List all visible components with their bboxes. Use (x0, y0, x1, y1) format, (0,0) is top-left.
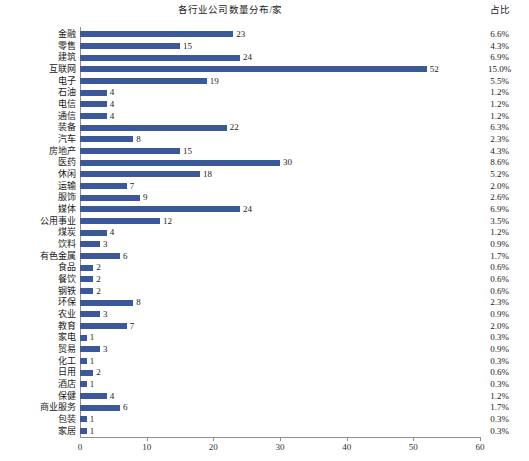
bar-value-label: 1 (90, 332, 95, 342)
x-axis-tick-60 (480, 437, 481, 441)
category-label: 零售 (0, 41, 76, 51)
bar (80, 101, 107, 107)
category-label: 电子 (0, 76, 76, 86)
x-axis-tick-10 (147, 437, 148, 441)
percentage-value: 2.3% (470, 297, 529, 307)
x-axis-tick-label-0: 0 (65, 442, 95, 452)
chart-title: 各行业公司数量分布/家 (0, 2, 460, 16)
percentage-value: 3.5% (470, 216, 529, 226)
category-label: 餐饮 (0, 274, 76, 284)
category-label: 环保 (0, 297, 76, 307)
bar (80, 171, 200, 177)
percentage-value: 0.9% (470, 309, 529, 319)
percentage-value: 0.9% (470, 344, 529, 354)
x-axis-tick-40 (347, 437, 348, 441)
percentage-column-header: 占比 (470, 2, 529, 16)
percentage-value: 0.6% (470, 286, 529, 296)
category-label: 运输 (0, 181, 76, 191)
percentage-value: 15.0% (470, 64, 529, 74)
bar-value-label: 2 (96, 367, 101, 377)
category-label: 服饰 (0, 192, 76, 202)
category-label: 装备 (0, 122, 76, 132)
percentage-value: 6.9% (470, 204, 529, 214)
bar (80, 206, 240, 212)
bar-value-label: 4 (110, 87, 115, 97)
percentage-value: 1.2% (470, 99, 529, 109)
bar (80, 78, 207, 84)
category-label: 通信 (0, 111, 76, 121)
percentage-value: 1.7% (470, 251, 529, 261)
bar-value-label: 6 (123, 402, 128, 412)
bar-value-label: 8 (136, 297, 141, 307)
percentage-value: 5.2% (470, 169, 529, 179)
bar (80, 125, 227, 131)
x-axis-tick-label-50: 50 (398, 442, 428, 452)
bar-value-label: 7 (130, 321, 135, 331)
bar (80, 218, 160, 224)
industry-company-distribution-chart: 各行业公司数量分布/家 占比 0102030405060 金融236.6%零售1… (0, 0, 529, 461)
percentage-value: 0.3% (470, 414, 529, 424)
bar (80, 276, 93, 282)
bar (80, 370, 93, 376)
bar-value-label: 3 (103, 239, 108, 249)
percentage-value: 0.9% (470, 239, 529, 249)
x-axis-tick-50 (413, 437, 414, 441)
bar (80, 55, 240, 61)
category-label: 医药 (0, 157, 76, 167)
bar-value-label: 52 (430, 64, 439, 74)
x-axis-tick-label-30: 30 (265, 442, 295, 452)
percentage-value: 6.3% (470, 122, 529, 132)
percentage-value: 1.2% (470, 227, 529, 237)
bar (80, 346, 100, 352)
bar (80, 311, 100, 317)
bar (80, 358, 87, 364)
category-label: 包装 (0, 414, 76, 424)
bar-value-label: 4 (110, 111, 115, 121)
percentage-value: 2.0% (470, 181, 529, 191)
category-label: 房地产 (0, 146, 76, 156)
x-axis-tick-30 (280, 437, 281, 441)
bar-value-label: 4 (110, 391, 115, 401)
bar-value-label: 24 (243, 204, 252, 214)
bar-value-label: 1 (90, 426, 95, 436)
percentage-value: 2.6% (470, 192, 529, 202)
category-label: 石油 (0, 87, 76, 97)
percentage-value: 0.3% (470, 379, 529, 389)
percentage-value: 2.0% (470, 321, 529, 331)
bar (80, 288, 93, 294)
bar (80, 381, 87, 387)
category-label: 农业 (0, 309, 76, 319)
bar-value-label: 7 (130, 181, 135, 191)
percentage-value: 6.9% (470, 52, 529, 62)
x-axis-tick-label-10: 10 (132, 442, 162, 452)
category-label: 酒店 (0, 379, 76, 389)
bar-value-label: 24 (243, 52, 252, 62)
category-label: 贸易 (0, 344, 76, 354)
category-label: 家居 (0, 426, 76, 436)
bar-value-label: 6 (123, 251, 128, 261)
bar-value-label: 23 (236, 29, 245, 39)
category-label: 保健 (0, 391, 76, 401)
bar-value-label: 12 (163, 216, 172, 226)
bar-value-label: 9 (143, 192, 148, 202)
percentage-value: 1.7% (470, 402, 529, 412)
bar-value-label: 3 (103, 309, 108, 319)
percentage-value: 0.3% (470, 426, 529, 436)
bar-value-label: 22 (230, 122, 239, 132)
percentage-value: 4.3% (470, 146, 529, 156)
bar (80, 160, 280, 166)
x-axis-tick-label-40: 40 (332, 442, 362, 452)
category-label: 公用事业 (0, 216, 76, 226)
bar-value-label: 19 (210, 76, 219, 86)
percentage-value: 5.5% (470, 76, 529, 86)
bar (80, 230, 107, 236)
bar-value-label: 1 (90, 356, 95, 366)
bar (80, 428, 87, 434)
bar (80, 300, 133, 306)
bar (80, 183, 127, 189)
category-label: 金融 (0, 29, 76, 39)
bar-value-label: 4 (110, 227, 115, 237)
category-label: 教育 (0, 321, 76, 331)
bar (80, 66, 427, 72)
percentage-value: 1.2% (470, 111, 529, 121)
